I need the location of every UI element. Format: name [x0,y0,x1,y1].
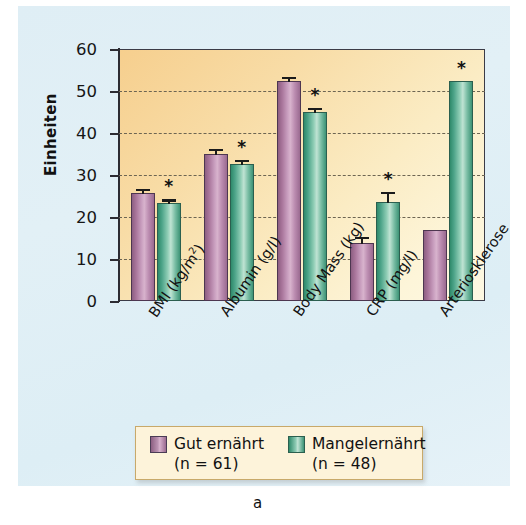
bar-gut-ernaehrt-0 [131,193,155,301]
significance-marker-4: * [457,60,466,77]
figure-caption: a [253,494,262,512]
y-tick-label-50: 50 [18,82,97,101]
significance-marker-2: * [311,87,320,104]
y-tick-0 [110,301,119,303]
figure-container: Einheiten 0102030405060 ***** BMI (kg/m2… [0,0,526,525]
y-tick-label-10: 10 [18,250,97,269]
legend-item-malnourished: Mangelernährt(n = 48) [288,434,426,475]
bar-gut-ernaehrt-3 [350,243,374,301]
significance-marker-1: * [237,139,246,156]
y-tick-label-0: 0 [18,292,97,311]
legend-label-malnourished: Mangelernährt [312,434,426,454]
legend-count-well-nourished: (n = 61) [174,454,264,474]
legend-label-well-nourished: Gut ernährt [174,434,264,454]
legend-item-well-nourished: Gut ernährt(n = 61) [150,434,264,475]
significance-marker-3: * [384,171,393,188]
legend-count-malnourished: (n = 48) [312,454,426,474]
legend-swatch-well-nourished [150,436,167,453]
gridline-30 [119,175,485,176]
legend-swatch-malnourished [288,436,305,453]
y-tick-label-60: 60 [18,40,97,59]
y-tick-30 [110,175,119,177]
y-tick-20 [110,217,119,219]
legend-text-well-nourished: Gut ernährt(n = 61) [174,434,264,475]
bar-gut-ernaehrt-4 [423,230,447,301]
gridline-40 [119,133,485,134]
figure-panel: Einheiten 0102030405060 ***** BMI (kg/m2… [18,6,510,486]
significance-marker-0: * [164,178,173,195]
error-cap-2-0 [282,77,296,79]
y-tick-60 [110,49,119,51]
y-tick-40 [110,133,119,135]
error-cap-0-1 [162,199,176,201]
y-tick-50 [110,91,119,93]
y-tick-label-40: 40 [18,124,97,143]
gridline-50 [119,91,485,92]
error-cap-2-1 [308,108,322,110]
error-cap-1-1 [235,160,249,162]
bar-gut-ernaehrt-1 [204,154,228,301]
error-cap-0-0 [136,189,150,191]
legend: Gut ernährt(n = 61)Mangelernährt(n = 48) [135,426,423,480]
error-cap-1-0 [209,149,223,151]
error-cap-3-1 [381,192,395,194]
y-tick-10 [110,259,119,261]
y-tick-label-30: 30 [18,166,97,185]
bar-gut-ernaehrt-2 [277,81,301,301]
legend-text-malnourished: Mangelernährt(n = 48) [312,434,426,475]
y-tick-label-20: 20 [18,208,97,227]
